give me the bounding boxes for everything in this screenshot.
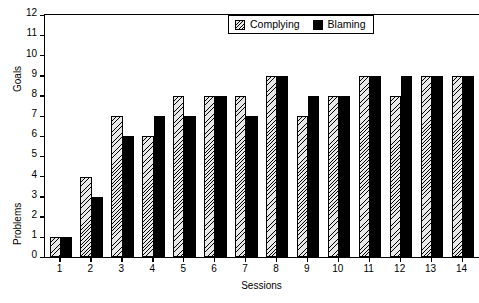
bar-complying-session-1 bbox=[50, 237, 61, 257]
x-tick-mark bbox=[338, 258, 339, 262]
y-tick-label: 7 bbox=[7, 109, 37, 119]
y-tick-label: 12 bbox=[7, 8, 37, 18]
bar-blaming-session-11 bbox=[370, 76, 381, 258]
bar-group bbox=[416, 15, 447, 257]
x-axis-title: Sessions bbox=[44, 280, 479, 291]
bar-blaming-session-7 bbox=[246, 116, 257, 257]
bar-blaming-session-10 bbox=[339, 96, 350, 257]
bars-layer bbox=[45, 15, 478, 257]
bar-group bbox=[76, 15, 107, 257]
bar-chart: Goals Problems 0123456789101112 12345678… bbox=[0, 0, 479, 303]
x-tick-mark bbox=[183, 258, 184, 262]
bar-group bbox=[169, 15, 200, 257]
bar-group bbox=[107, 15, 138, 257]
y-tick-label: 6 bbox=[7, 129, 37, 139]
x-tick-mark bbox=[152, 258, 153, 262]
bar-complying-session-14 bbox=[452, 76, 463, 258]
bar-blaming-session-5 bbox=[184, 116, 195, 257]
bar-complying-session-6 bbox=[204, 96, 215, 257]
bar-blaming-session-12 bbox=[401, 76, 412, 258]
bar-blaming-session-2 bbox=[92, 197, 103, 258]
legend-item-complying: Complying bbox=[235, 19, 300, 30]
x-tick-mark bbox=[462, 258, 463, 262]
bar-group bbox=[262, 15, 293, 257]
y-tick-label: 3 bbox=[7, 190, 37, 200]
x-tick-label: 14 bbox=[442, 263, 479, 274]
y-tick-label: 10 bbox=[7, 49, 37, 59]
legend-item-blaming: Blaming bbox=[313, 19, 366, 30]
bar-group bbox=[447, 15, 478, 257]
bar-blaming-session-3 bbox=[123, 136, 134, 257]
x-axis: 1234567891011121314 bbox=[44, 258, 479, 278]
bar-blaming-session-1 bbox=[61, 237, 72, 257]
x-tick-mark bbox=[214, 258, 215, 262]
y-tick-label: 11 bbox=[7, 28, 37, 38]
bar-complying-session-2 bbox=[80, 177, 91, 258]
bar-complying-session-3 bbox=[111, 116, 122, 257]
bar-complying-session-11 bbox=[359, 76, 370, 258]
bar-complying-session-13 bbox=[421, 76, 432, 258]
y-tick-label: 8 bbox=[7, 89, 37, 99]
bar-complying-session-9 bbox=[297, 116, 308, 257]
bar-group bbox=[138, 15, 169, 257]
x-tick-mark bbox=[400, 258, 401, 262]
bar-group bbox=[293, 15, 324, 257]
bar-group bbox=[355, 15, 386, 257]
x-tick-mark bbox=[307, 258, 308, 262]
bar-group bbox=[386, 15, 417, 257]
bar-complying-session-7 bbox=[235, 96, 246, 257]
bar-group bbox=[45, 15, 76, 257]
bar-complying-session-8 bbox=[266, 76, 277, 258]
y-tick-label: 5 bbox=[7, 149, 37, 159]
bar-blaming-session-13 bbox=[432, 76, 443, 258]
y-tick-label: 9 bbox=[7, 69, 37, 79]
bar-complying-session-5 bbox=[173, 96, 184, 257]
bar-blaming-session-14 bbox=[463, 76, 474, 258]
x-tick-mark bbox=[245, 258, 246, 262]
bar-blaming-session-8 bbox=[277, 76, 288, 258]
x-tick-mark bbox=[431, 258, 432, 262]
legend-label-complying: Complying bbox=[250, 19, 300, 30]
y-tick-label: 4 bbox=[7, 170, 37, 180]
bar-complying-session-12 bbox=[390, 96, 401, 257]
x-tick-mark bbox=[369, 258, 370, 262]
bar-blaming-session-9 bbox=[308, 96, 319, 257]
legend-swatch-blaming bbox=[313, 20, 323, 30]
x-tick-mark bbox=[121, 258, 122, 262]
x-tick-mark bbox=[276, 258, 277, 262]
bar-blaming-session-4 bbox=[154, 116, 165, 257]
legend-swatch-complying bbox=[235, 20, 245, 30]
bar-complying-session-10 bbox=[328, 96, 339, 257]
legend: Complying Blaming bbox=[228, 15, 374, 34]
bar-complying-session-4 bbox=[142, 136, 153, 257]
x-tick-mark bbox=[90, 258, 91, 262]
y-tick-label: 1 bbox=[7, 230, 37, 240]
bar-blaming-session-6 bbox=[215, 96, 226, 257]
legend-label-blaming: Blaming bbox=[328, 19, 366, 30]
y-tick-label: 2 bbox=[7, 210, 37, 220]
y-axis: 0123456789101112 bbox=[0, 14, 44, 258]
x-tick-mark bbox=[59, 258, 60, 262]
y-tick-label: 0 bbox=[7, 250, 37, 260]
bar-group bbox=[324, 15, 355, 257]
bar-group bbox=[200, 15, 231, 257]
bar-group bbox=[231, 15, 262, 257]
